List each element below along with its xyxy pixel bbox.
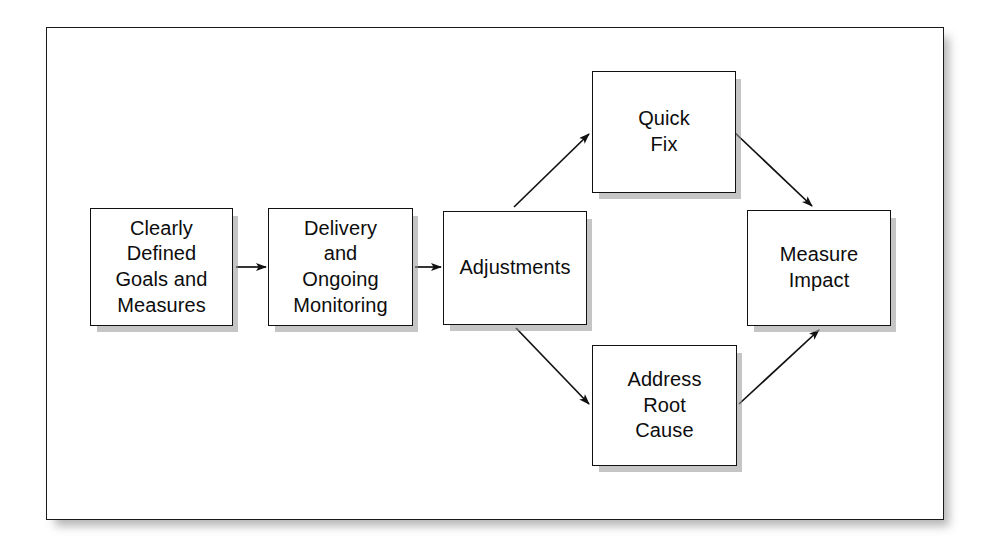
node-label: Address Root Cause [621, 367, 707, 444]
node-label: Adjustments [453, 255, 576, 281]
node-label: Clearly Defined Goals and Measures [109, 216, 213, 318]
node-delivery-and-ongoing-monitoring[interactable]: Delivery and Ongoing Monitoring [268, 208, 413, 326]
node-label: Measure Impact [774, 242, 865, 293]
node-quick-fix[interactable]: Quick Fix [592, 71, 736, 193]
node-label: Delivery and Ongoing Monitoring [287, 216, 393, 318]
diagram-canvas: Clearly Defined Goals and Measures Deliv… [0, 0, 993, 557]
node-adjustments[interactable]: Adjustments [443, 211, 587, 325]
node-measure-impact[interactable]: Measure Impact [747, 210, 891, 326]
node-clearly-defined-goals-and-measures[interactable]: Clearly Defined Goals and Measures [90, 208, 233, 326]
node-address-root-cause[interactable]: Address Root Cause [592, 345, 737, 466]
node-label: Quick Fix [632, 106, 696, 157]
